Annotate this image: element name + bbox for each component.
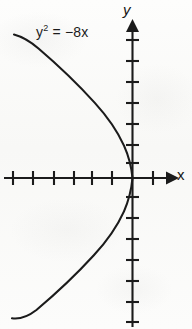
equation-rest: = −8x — [48, 24, 88, 40]
x-axis-group — [4, 171, 179, 185]
x-axis-label: x — [177, 166, 185, 183]
parabola-upper-branch — [14, 35, 133, 178]
plot-canvas — [0, 0, 192, 329]
y-axis-arrowhead — [126, 19, 139, 32]
equation-label: y2 = −8x — [36, 24, 89, 40]
parabola-figure: y2 = −8x y x — [0, 0, 192, 329]
parabola-lower-branch — [12, 178, 133, 319]
parabola-curve-group — [12, 35, 133, 319]
y-axis-label: y — [123, 1, 131, 18]
